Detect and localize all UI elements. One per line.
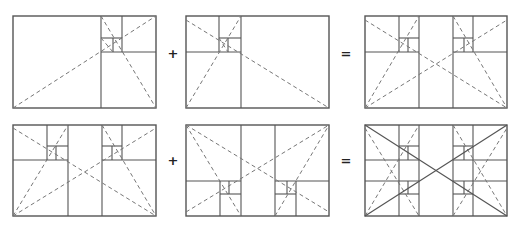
dashed-guide-line: [453, 16, 507, 108]
panel-frame: [365, 16, 507, 108]
dashed-guide-line: [186, 16, 241, 108]
panel-frame: [186, 125, 329, 216]
dashed-guide-line: [102, 125, 156, 216]
dashed-guide-line: [13, 125, 68, 216]
panel-bottom-right: [365, 125, 507, 216]
dashed-guide-line: [186, 20, 329, 108]
panel-bottom-left: [13, 125, 156, 216]
panel-top-middle: [186, 16, 329, 108]
dashed-guide-line: [453, 128, 507, 216]
equals-operator: =: [341, 154, 352, 167]
plus-operator: +: [168, 47, 179, 60]
dashed-guide-line: [186, 125, 241, 216]
dashed-guide-line: [101, 16, 156, 108]
panel-bottom-middle: [186, 125, 329, 216]
golden-ratio-diagram: [0, 0, 519, 230]
panel-top-right: [365, 16, 507, 108]
plus-operator: +: [168, 154, 179, 167]
dashed-guide-line: [275, 125, 329, 216]
equals-operator: =: [341, 47, 352, 60]
dashed-guide-line: [365, 16, 419, 108]
panel-frame: [186, 16, 329, 108]
dashed-guide-line: [13, 16, 156, 108]
panel-top-left: [13, 16, 156, 108]
